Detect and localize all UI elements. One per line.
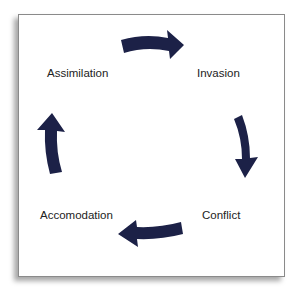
cycle-arrows [0,0,302,296]
node-assimilation: Assimilation [47,67,108,79]
curved-arrow-right-icon [121,30,184,59]
node-conflict: Conflict [202,209,240,221]
curved-arrow-down-icon [234,115,258,178]
curved-arrow-left-icon [118,220,183,247]
curved-arrow-up-icon [37,113,65,174]
node-invasion: Invasion [197,67,240,79]
node-accomodation: Accomodation [40,209,113,221]
